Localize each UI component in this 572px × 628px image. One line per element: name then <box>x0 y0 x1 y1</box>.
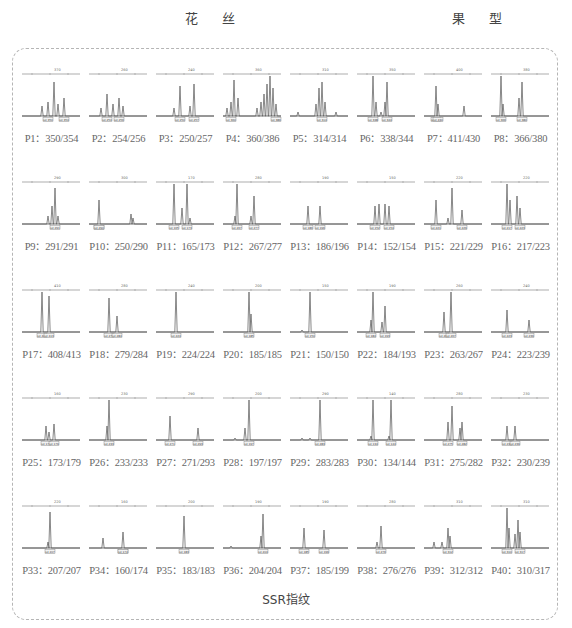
svg-text:sd 283: sd 283 <box>315 442 325 446</box>
electropherogram-p27: 290sd 271sd 293P27：271/293 <box>152 388 219 496</box>
electropherogram-p3: 240sd 250sd 257P3：250/257 <box>152 64 219 172</box>
peak-trace-chart: 190sd 204 <box>221 496 285 560</box>
svg-text:sd 284: sd 284 <box>112 334 122 338</box>
sample-genotype-label: P19：224/224 <box>148 346 223 361</box>
svg-text:190: 190 <box>322 176 329 180</box>
peak-trace-chart: 380sd 366sd 380 <box>489 64 553 128</box>
svg-text:280: 280 <box>121 284 128 288</box>
peak-trace-chart: 260sd 263sd 267 <box>422 280 486 344</box>
sample-genotype-label: P36：204/204 <box>215 562 290 577</box>
electropherogram-p26: 230sd 233P26：233/233 <box>85 388 152 496</box>
peak-trace-chart: 240sd 223sd 239 <box>489 280 553 344</box>
sample-genotype-label: P24：223/239 <box>483 346 558 361</box>
electropherogram-p31: 280sd 275sd 282P31：275/282 <box>420 388 487 496</box>
svg-text:sd 257: sd 257 <box>189 118 199 122</box>
electropherogram-p25: 160sd 173sd 179P25：173/179 <box>18 388 85 496</box>
sample-genotype-label: P22：184/193 <box>349 346 424 361</box>
svg-text:380: 380 <box>523 68 530 72</box>
peak-trace-chart: 220sd 221sd 229 <box>422 172 486 236</box>
peak-trace-chart: 400sd 411sd 430 <box>422 64 486 128</box>
sample-genotype-label: P6：338/344 <box>349 130 424 145</box>
sample-genotype-label: P3：250/257 <box>148 130 223 145</box>
svg-text:sd 254: sd 254 <box>102 118 112 122</box>
electropherogram-p1: 370sd 350sd 354P1：350/354 <box>18 64 85 172</box>
electropherogram-p7: 400sd 411sd 430P7：411/430 <box>420 64 487 172</box>
peak-trace-chart: 280sd 279sd 284 <box>87 280 151 344</box>
electropherogram-grid: 370sd 350sd 354P1：350/354260sd 254sd 256… <box>18 64 554 604</box>
electropherogram-p18: 280sd 279sd 284P18：279/284 <box>85 280 152 388</box>
electropherogram-p5: 310sd 314P5：314/314 <box>286 64 353 172</box>
electropherogram-p12: 280sd 267sd 277P12：267/277 <box>219 172 286 280</box>
sample-genotype-label: P32：230/239 <box>483 454 558 469</box>
svg-text:sd 179: sd 179 <box>49 442 59 446</box>
svg-text:sd 310: sd 310 <box>502 550 512 554</box>
svg-text:280: 280 <box>456 392 463 396</box>
svg-text:150: 150 <box>389 176 396 180</box>
svg-text:410: 410 <box>54 284 61 288</box>
peak-trace-chart: 410sd 408sd 413 <box>20 280 84 344</box>
electropherogram-p30: 140sd 134sd 144P30：134/144 <box>353 388 420 496</box>
header-label-fruit-shape: 果 型 <box>452 8 512 27</box>
sample-genotype-label: P40：310/317 <box>483 562 558 577</box>
svg-text:190: 190 <box>322 500 329 504</box>
electropherogram-p24: 240sd 223sd 239P24：223/239 <box>487 280 554 388</box>
peak-trace-chart: 240sd 224 <box>154 280 218 344</box>
peak-trace-chart: 260sd 254sd 256 <box>87 64 151 128</box>
sample-genotype-label: P5：314/314 <box>282 130 357 145</box>
peak-trace-chart: 150sd 152sd 154 <box>355 172 419 236</box>
sample-genotype-label: P11：165/173 <box>148 238 223 253</box>
sample-genotype-label: P15：221/229 <box>416 238 491 253</box>
svg-text:220: 220 <box>523 176 530 180</box>
peak-trace-chart: 350sd 338sd 344 <box>355 64 419 128</box>
svg-text:140: 140 <box>389 392 396 396</box>
peak-trace-chart: 310sd 312 <box>422 496 486 560</box>
electropherogram-p2: 260sd 254sd 256P2：254/256 <box>85 64 152 172</box>
svg-text:sd 380: sd 380 <box>517 118 527 122</box>
electropherogram-p32: 230sd 230sd 239P32：230/239 <box>487 388 554 496</box>
svg-text:300: 300 <box>121 176 128 180</box>
electropherogram-p21: 150sd 150P21：150/150 <box>286 280 353 388</box>
svg-text:sd 183: sd 183 <box>179 550 189 554</box>
svg-text:310: 310 <box>523 500 530 504</box>
peak-trace-chart: 170sd 165sd 173 <box>154 172 218 236</box>
svg-text:sd 350: sd 350 <box>43 118 53 122</box>
sample-genotype-label: P17：408/413 <box>14 346 89 361</box>
sample-genotype-label: P28：197/197 <box>215 454 290 469</box>
peak-trace-chart: 230sd 233 <box>87 388 151 452</box>
electropherogram-p11: 170sd 165sd 173P11：165/173 <box>152 172 219 280</box>
svg-text:sd 267: sd 267 <box>446 334 456 338</box>
svg-text:sd 199: sd 199 <box>319 550 329 554</box>
svg-text:sd 204: sd 204 <box>258 550 268 554</box>
svg-text:sd 317: sd 317 <box>515 550 525 554</box>
electropherogram-p29: 290sd 283P29：283/283 <box>286 388 353 496</box>
electropherogram-p35: 200sd 183P35：183/183 <box>152 496 219 604</box>
electropherogram-p34: 160sd 160sd 174P34：160/174 <box>85 496 152 604</box>
sample-genotype-label: P25：173/179 <box>14 454 89 469</box>
svg-text:sd 173: sd 173 <box>182 226 192 230</box>
sample-genotype-label: P26：233/233 <box>81 454 156 469</box>
peak-trace-chart: 310sd 310sd 317 <box>489 496 553 560</box>
sample-genotype-label: P14：152/154 <box>349 238 424 253</box>
sample-genotype-label: P29：283/283 <box>282 454 357 469</box>
svg-text:220: 220 <box>54 500 61 504</box>
svg-text:sd 185: sd 185 <box>244 334 254 338</box>
svg-text:sd 193: sd 193 <box>380 334 390 338</box>
sample-genotype-label: P30：134/144 <box>349 454 424 469</box>
svg-text:sd 154: sd 154 <box>384 226 394 230</box>
svg-text:310: 310 <box>456 500 463 504</box>
svg-text:sd 291: sd 291 <box>50 226 60 230</box>
svg-text:sd 275: sd 275 <box>443 442 453 446</box>
svg-text:sd 338: sd 338 <box>368 118 378 122</box>
sample-genotype-label: P38：276/276 <box>349 562 424 577</box>
svg-text:sd 293: sd 293 <box>193 442 203 446</box>
svg-text:280: 280 <box>255 176 262 180</box>
sample-genotype-label: P20：185/185 <box>215 346 290 361</box>
svg-text:190: 190 <box>389 284 396 288</box>
svg-text:sd 250: sd 250 <box>175 118 185 122</box>
svg-text:230: 230 <box>121 392 128 396</box>
svg-text:sd 312: sd 312 <box>443 550 453 554</box>
electropherogram-p23: 260sd 263sd 267P23：263/267 <box>420 280 487 388</box>
svg-text:170: 170 <box>188 176 195 180</box>
electropherogram-p37: 190sd 185sd 199P37：185/199 <box>286 496 353 604</box>
svg-text:sd 134: sd 134 <box>368 442 378 446</box>
